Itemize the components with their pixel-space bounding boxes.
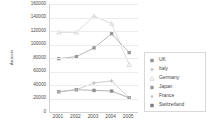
y-tick-label: 100000 (12, 42, 46, 47)
legend-item[interactable]: Switzerland (148, 101, 205, 110)
legend-label: Germany (159, 76, 179, 81)
chart-container: Arrivals 0200004000060000800001000001200… (0, 0, 207, 137)
legend-marker-icon (148, 66, 156, 73)
legend-marker-icon (148, 84, 156, 91)
legend-label: UK (159, 58, 166, 63)
data-point (150, 104, 153, 107)
legend-item[interactable]: Italy (148, 65, 205, 74)
y-axis-tick-labels: 0200004000060000800001000001200001400001… (12, 0, 46, 137)
x-axis-tick-labels: 20012002200320042005 (49, 0, 137, 137)
legend-label: Switzerland (159, 103, 184, 108)
legend-label: Italy (159, 67, 168, 72)
data-point (150, 76, 154, 80)
y-tick-label: 160000 (12, 2, 46, 7)
legend-marker-icon (148, 102, 156, 109)
legend-label: France (159, 94, 174, 99)
legend-item[interactable]: Germany (148, 74, 205, 83)
x-tick-label: 2005 (115, 114, 141, 119)
y-tick-label: 120000 (12, 29, 46, 34)
y-tick-label: 0 (12, 110, 46, 115)
y-tick-label: 60000 (12, 69, 46, 74)
y-tick-label: 20000 (12, 96, 46, 101)
data-point (150, 68, 154, 72)
y-tick-label: 140000 (12, 15, 46, 20)
legend-marker-icon (148, 57, 156, 64)
legend-label: Japan (159, 85, 172, 90)
data-point (150, 59, 153, 62)
legend: UKItalyGermanyJapanFranceSwitzerland (144, 52, 206, 112)
legend-item[interactable]: France (148, 92, 205, 101)
data-point (151, 95, 154, 98)
legend-marker-icon (148, 93, 156, 100)
legend-marker-icon (148, 75, 156, 82)
legend-item[interactable]: Japan (148, 83, 205, 92)
data-point (150, 86, 153, 89)
y-tick-label: 40000 (12, 83, 46, 88)
y-tick-label: 80000 (12, 56, 46, 61)
legend-item[interactable]: UK (148, 56, 205, 65)
